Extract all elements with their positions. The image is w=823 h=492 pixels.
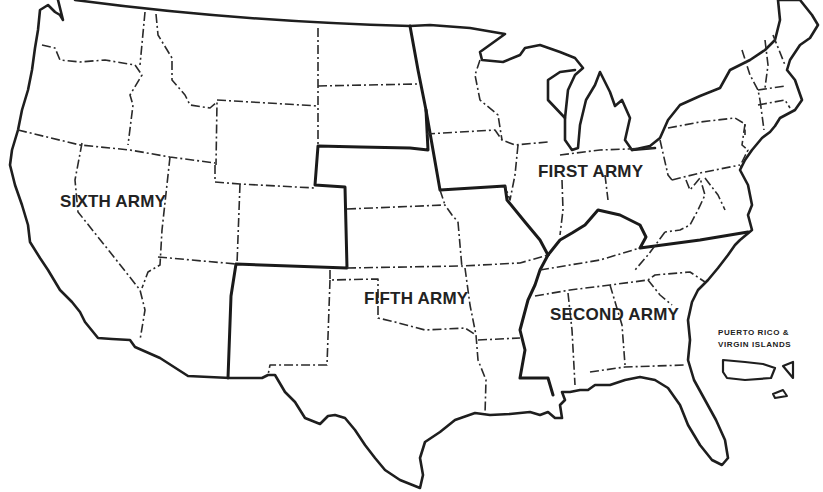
state-line	[758, 86, 785, 90]
state-line	[672, 165, 740, 180]
state-line	[142, 157, 170, 288]
state-line	[440, 190, 445, 205]
lake-michigan-shore	[548, 70, 575, 118]
region-label-first-army: FIRST ARMY	[538, 163, 643, 180]
region-label-sixth-army: SIXTH ARMY	[60, 193, 166, 210]
state-line	[215, 165, 315, 188]
state-line	[237, 184, 240, 264]
puerto-rico-inset	[715, 350, 805, 410]
state-line	[660, 140, 672, 180]
us-army-areas-map	[0, 0, 823, 492]
state-line	[217, 100, 318, 106]
boundary-sixth-fifth	[228, 26, 428, 378]
state-line	[705, 178, 725, 210]
state-line	[610, 285, 625, 365]
state-line	[347, 205, 458, 222]
state-line	[156, 14, 217, 165]
state-line	[560, 180, 563, 235]
state-line	[475, 60, 502, 140]
state-line	[318, 84, 418, 86]
state-line	[18, 130, 215, 163]
region-label-second-army: SECOND ARMY	[550, 306, 679, 323]
state-line	[140, 12, 145, 65]
puerto-rico-shape	[723, 360, 775, 380]
state-line	[758, 100, 790, 108]
state-line	[668, 118, 745, 135]
state-line	[426, 130, 548, 145]
state-line	[458, 222, 462, 268]
state-line	[158, 257, 236, 264]
inset-label-line2: VIRGIN ISLANDS	[718, 339, 791, 351]
inset-label-line1: PUERTO RICO &	[718, 327, 791, 339]
national-boundary	[10, 0, 818, 488]
state-line	[75, 143, 145, 340]
state-line	[347, 255, 548, 268]
state-line	[42, 45, 142, 145]
state-line	[478, 338, 520, 340]
state-line	[665, 178, 705, 232]
small-island-shape	[773, 390, 787, 398]
state-line	[535, 272, 705, 296]
state-line	[505, 145, 518, 200]
state-line	[742, 50, 760, 100]
boundary-first-second	[548, 210, 748, 255]
region-label-fifth-army: FIFTH ARMY	[364, 290, 468, 307]
state-line	[648, 280, 672, 305]
state-line	[540, 248, 640, 270]
virgin-islands-shape	[783, 362, 793, 378]
boundary-fifth-second	[520, 255, 553, 395]
state-line	[268, 280, 330, 375]
state-line	[635, 232, 665, 270]
state-line	[590, 365, 685, 372]
boundary-fifth-first	[426, 110, 548, 255]
state-line	[773, 35, 785, 65]
inset-label: PUERTO RICO & VIRGIN ISLANDS	[718, 327, 791, 352]
